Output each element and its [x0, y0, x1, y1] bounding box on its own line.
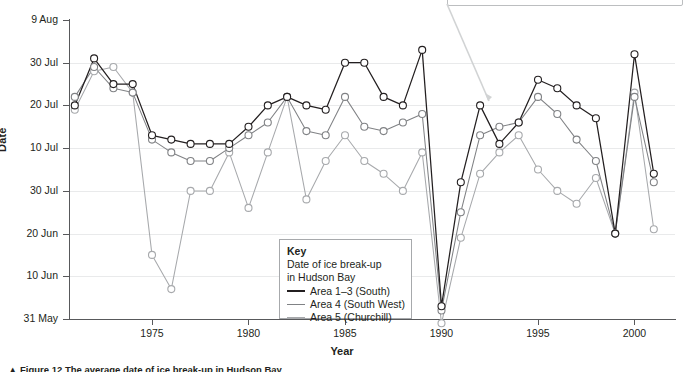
data-point — [515, 132, 522, 139]
data-point — [206, 187, 213, 194]
data-point — [322, 132, 329, 139]
data-point — [650, 179, 657, 186]
data-point — [361, 123, 368, 130]
data-point — [110, 81, 117, 88]
data-point — [129, 81, 136, 88]
data-point — [535, 93, 542, 100]
data-point — [554, 85, 561, 92]
data-point — [245, 204, 252, 211]
data-point — [515, 119, 522, 126]
data-point — [245, 123, 252, 130]
data-point — [573, 200, 580, 207]
legend-entry-1: Area 1–3 (South) — [287, 285, 404, 298]
data-point — [187, 187, 194, 194]
data-point — [457, 234, 464, 241]
data-point — [91, 55, 98, 62]
data-point — [264, 149, 271, 156]
data-point — [592, 175, 599, 182]
data-point — [419, 149, 426, 156]
figure-caption: ▲ Figure 12 The average date of ice brea… — [8, 364, 608, 372]
data-point — [457, 209, 464, 216]
chart-container: 9 Aug30 Jul20 Jul10 Jul30 Jul20 Jun10 Ju… — [0, 0, 684, 372]
legend-entry-label: Area 5 (Churchill) — [310, 311, 392, 324]
data-point — [206, 140, 213, 147]
legend-entry-3: Area 5 (Churchill) — [287, 311, 404, 324]
data-point — [322, 106, 329, 113]
legend-line-swatch — [287, 317, 305, 318]
data-point — [380, 170, 387, 177]
data-point — [419, 111, 426, 118]
data-point — [361, 158, 368, 165]
data-point — [535, 166, 542, 173]
data-point — [554, 187, 561, 194]
data-point — [226, 140, 233, 147]
data-point — [168, 149, 175, 156]
data-point — [631, 51, 638, 58]
legend-subtitle-line1: Date of ice break-up — [287, 258, 404, 271]
data-point — [187, 140, 194, 147]
annotation-arrow-head — [485, 93, 492, 101]
legend-line-swatch — [287, 304, 305, 305]
legend-entry-2: Area 4 (South West) — [287, 298, 404, 311]
data-point — [438, 303, 445, 310]
data-point — [496, 149, 503, 156]
data-point — [592, 158, 599, 165]
legend-entry-label: Area 1–3 (South) — [310, 285, 390, 298]
data-point — [477, 132, 484, 139]
data-point — [496, 140, 503, 147]
data-point — [573, 136, 580, 143]
data-point — [168, 286, 175, 293]
data-point — [303, 128, 310, 135]
data-point — [380, 93, 387, 100]
data-point — [535, 76, 542, 83]
data-point — [399, 102, 406, 109]
data-point — [303, 102, 310, 109]
data-point — [71, 102, 78, 109]
data-point — [71, 93, 78, 100]
legend-title: Key — [287, 245, 404, 258]
data-point — [554, 111, 561, 118]
data-point — [438, 320, 445, 327]
data-point — [419, 46, 426, 53]
data-point — [303, 196, 310, 203]
data-point — [129, 89, 136, 96]
data-point — [264, 102, 271, 109]
annotation-arrow-line — [447, 4, 489, 101]
data-point — [631, 93, 638, 100]
data-point — [284, 93, 291, 100]
data-point — [573, 102, 580, 109]
data-point — [149, 251, 156, 258]
legend-box: Key Date of ice break-up in Hudson Bay A… — [279, 239, 412, 319]
legend-entry-label: Area 4 (South West) — [310, 298, 405, 311]
data-point — [91, 64, 98, 71]
data-point — [187, 158, 194, 165]
data-point — [110, 64, 117, 71]
data-point — [168, 136, 175, 143]
data-point — [342, 59, 349, 66]
data-point — [206, 158, 213, 165]
data-point — [322, 158, 329, 165]
legend-subtitle-line2: in Hudson Bay — [287, 271, 404, 284]
data-point — [650, 170, 657, 177]
data-point — [342, 93, 349, 100]
data-point — [380, 128, 387, 135]
legend-entries: Area 1–3 (South)Area 4 (South West)Area … — [287, 285, 404, 325]
data-point — [477, 170, 484, 177]
legend-line-swatch — [287, 290, 305, 292]
data-point — [399, 187, 406, 194]
data-point — [650, 226, 657, 233]
data-point — [245, 132, 252, 139]
data-point — [264, 119, 271, 126]
data-point — [342, 132, 349, 139]
data-point — [496, 123, 503, 130]
data-point — [399, 119, 406, 126]
data-point — [361, 59, 368, 66]
data-point — [457, 179, 464, 186]
data-point — [477, 102, 484, 109]
data-point — [612, 230, 619, 237]
data-point — [592, 115, 599, 122]
data-point — [149, 132, 156, 139]
